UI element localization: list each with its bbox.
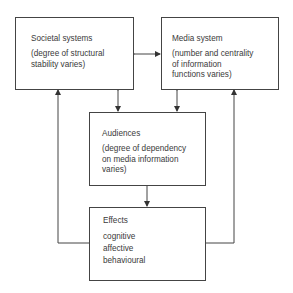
effects-title: Effects: [103, 216, 128, 226]
societal-systems-box: Societal systems (degree of structural s…: [15, 17, 134, 90]
societal-systems-title: Societal systems: [31, 34, 92, 44]
audiences-desc: (degree of dependency on media informati…: [102, 144, 186, 176]
arrow-effects-societal: [58, 90, 89, 243]
effects-box: Effects cognitive affective behavioural: [89, 207, 206, 281]
effects-desc: cognitive affective behavioural: [103, 231, 145, 267]
audiences-box: Audiences (degree of dependency on media…: [89, 112, 206, 186]
media-system-box: Media system (number and centrality of i…: [161, 17, 279, 90]
media-system-title: Media system: [172, 34, 223, 44]
societal-systems-desc: (degree of structural stability varies): [31, 49, 104, 70]
audiences-title: Audiences: [102, 129, 140, 139]
media-system-desc: (number and centrality of information fu…: [172, 49, 253, 81]
arrow-effects-media: [205, 90, 234, 243]
